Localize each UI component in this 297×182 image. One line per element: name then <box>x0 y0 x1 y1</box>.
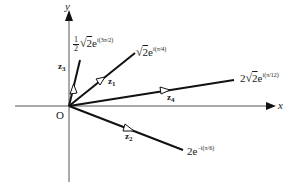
x-axis-arrow-icon <box>266 102 276 110</box>
z2-expression: 2e−i(π/6) <box>187 145 214 157</box>
vector-z4 <box>69 80 234 106</box>
z2-label: z2 <box>125 132 133 143</box>
z2-arrowhead-icon <box>123 124 134 131</box>
z4-label: z4 <box>167 93 175 104</box>
diagram-canvas <box>0 0 297 182</box>
z1-expression: √2ei(π/4) <box>136 46 166 58</box>
argand-diagram: y x O z3 z1 z4 z2 12√2ei(3π/2) √2ei(π/4)… <box>0 0 297 182</box>
z3-fraction: 12 <box>73 36 79 53</box>
origin-label: O <box>56 110 64 121</box>
y-axis-label: y <box>65 1 70 12</box>
vector-z2 <box>69 106 183 150</box>
sqrt-symbol: √ <box>136 45 143 59</box>
z4-expression: 2√2ei(π/12) <box>240 72 279 84</box>
z3-arrowhead-icon <box>70 84 77 94</box>
z3-label: z3 <box>58 62 66 73</box>
x-axis <box>15 102 276 110</box>
z1-label: z1 <box>108 77 116 88</box>
x-axis-label: x <box>278 100 283 111</box>
z3-expression: 12√2ei(3π/2) <box>73 36 113 53</box>
sqrt-symbol: √ <box>80 36 87 50</box>
